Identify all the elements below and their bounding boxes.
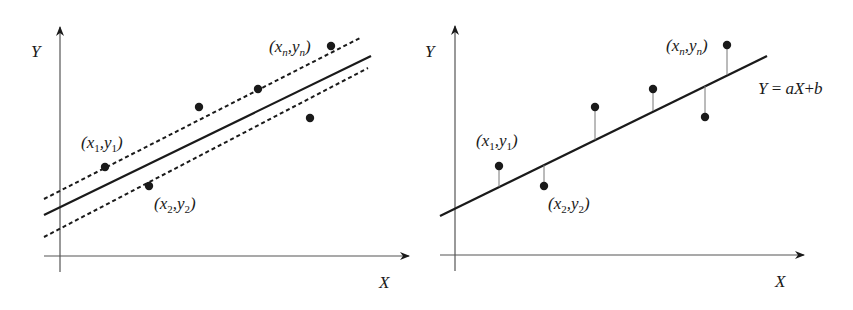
x-axis-label: X: [774, 272, 786, 291]
data-points: [495, 41, 731, 190]
y-axis-label: Y: [31, 42, 42, 61]
data-points: [101, 42, 335, 190]
left-panel: Y X (x1,y1) (x2,y2) (xn,yn): [31, 27, 409, 292]
regression-diagram: Y X (x1,y1) (x2,y2) (xn,yn) Y X: [0, 0, 853, 310]
point-label-2: (x2,y2): [548, 194, 590, 215]
point-label-1: (x1,y1): [81, 133, 123, 154]
point-label-n: (xn,yn): [269, 37, 311, 58]
right-panel: Y X (x1,y1) (x2,y2) (xn,yn) Y = aX+b: [425, 26, 823, 291]
y-axis-label: Y: [425, 42, 436, 61]
point-label-2: (x2,y2): [154, 194, 196, 215]
regression-equation: Y = aX+b: [758, 79, 823, 98]
x-axis-label: X: [378, 273, 390, 292]
lower-confidence-band: [44, 68, 368, 237]
residuals: [499, 45, 727, 187]
point-label-1: (x1,y1): [476, 131, 518, 152]
point-label-n: (xn,yn): [666, 36, 708, 57]
